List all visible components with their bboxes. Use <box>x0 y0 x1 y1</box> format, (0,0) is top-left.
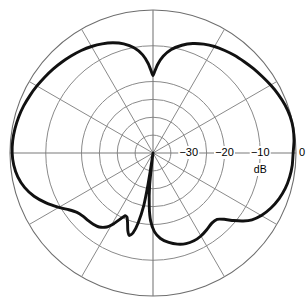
radial-tick-label--10: −10 <box>251 146 270 158</box>
grid-spoke-150 <box>29 82 153 154</box>
radial-tick-label-0: 0 <box>299 146 305 158</box>
polar-chart-container: −30−20−100dB <box>0 0 308 302</box>
radial-tick-labels: −30−20−100dB <box>178 146 306 176</box>
polar-plot-svg: −30−20−100dB <box>0 0 308 302</box>
grid-spoke-210 <box>29 153 153 225</box>
radial-tick-label--20: −20 <box>215 146 234 158</box>
radial-tick-label--30: −30 <box>179 146 198 158</box>
grid-spoke-30 <box>153 82 277 154</box>
radial-axis-unit-label: dB <box>254 163 267 175</box>
grid-spoke-300 <box>153 153 225 277</box>
